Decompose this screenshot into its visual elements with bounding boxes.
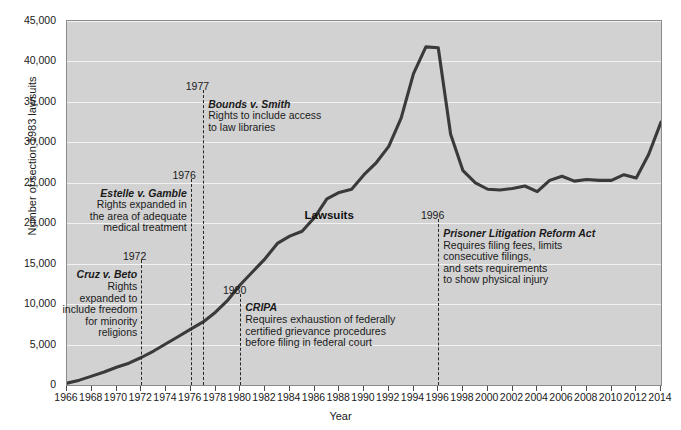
annotation-dashed-line-bounds-v-smith — [203, 90, 204, 385]
y-axis-tick-label: 45,000 — [0, 15, 62, 25]
annotation-dashed-line-prisoner-litigation-reform-act — [438, 219, 439, 385]
annotation-year-wrap-estelle-v-gamble: 1976 — [150, 165, 196, 183]
x-axis-tick-labels: 1966196819701972197419761978198019821984… — [66, 392, 662, 406]
annotation-body-prisoner-litigation-reform-act: Prisoner Litigation Reform ActRequires f… — [443, 228, 603, 286]
y-axis-tick-label: 20,000 — [0, 217, 62, 227]
y-axis-tick-label: 40,000 — [0, 55, 62, 65]
annotation-text-line: before filing in federal court — [245, 337, 420, 349]
y-axis-tick-label: 30,000 — [0, 136, 62, 146]
annotation-layer: 1972Cruz v. BetoRightsexpanded toinclude… — [67, 21, 661, 385]
x-axis-title: Year — [0, 410, 681, 422]
x-axis-tick-label: 2014 — [640, 392, 680, 403]
annotation-body-cruz-v-beto: Cruz v. BetoRightsexpanded toinclude fre… — [25, 269, 137, 339]
annotation-year-wrap-bounds-v-smith: 1977 — [163, 76, 209, 94]
annotation-text-line: Requires exhaustion of federally — [245, 314, 420, 326]
annotation-cruz-v-beto: Cruz v. BetoRightsexpanded toinclude fre… — [25, 269, 137, 339]
annotation-bounds-v-smith: Bounds v. SmithRights to include accesst… — [208, 99, 358, 134]
annotation-estelle-v-gamble: Estelle v. GambleRights expanded inthe a… — [59, 188, 187, 234]
annotation-year-bounds-v-smith: 1977 — [186, 80, 209, 92]
annotation-prisoner-litigation-reform-act: Prisoner Litigation Reform ActRequires f… — [443, 228, 603, 286]
annotation-title-prisoner-litigation-reform-act: Prisoner Litigation Reform Act — [443, 228, 603, 240]
y-axis-tick-label: 15,000 — [0, 258, 62, 268]
annotation-body-cripa: CRIPARequires exhaustion of federallycer… — [245, 302, 420, 348]
annotation-year-prisoner-litigation-reform-act: 1996 — [421, 209, 444, 221]
annotation-text-line: medical treatment — [59, 222, 187, 234]
annotation-dashed-line-cruz-v-beto — [141, 260, 142, 385]
annotation-body-bounds-v-smith: Bounds v. SmithRights to include accesst… — [208, 99, 358, 134]
annotation-year-wrap-cripa: 1980 — [200, 280, 246, 298]
annotation-dashed-line-estelle-v-gamble — [191, 179, 192, 385]
annotation-body-estelle-v-gamble: Estelle v. GambleRights expanded inthe a… — [59, 188, 187, 234]
y-axis-tick-label: 5,000 — [0, 339, 62, 349]
annotation-year-wrap-prisoner-litigation-reform-act: 1996 — [398, 205, 444, 223]
annotation-year-cruz-v-beto: 1972 — [123, 250, 146, 262]
chart-figure: Number of section 1983 lawsuits 05,00010… — [0, 0, 681, 430]
annotation-cripa: CRIPARequires exhaustion of federallycer… — [245, 302, 420, 348]
plot-area: Lawsuits 1972Cruz v. BetoRightsexpanded … — [66, 20, 662, 386]
annotation-text-line: include freedom — [25, 304, 137, 316]
annotation-text-line: Rights — [25, 281, 137, 293]
annotation-text-line: religions — [25, 327, 137, 339]
annotation-year-cripa: 1980 — [223, 284, 246, 296]
annotation-year-estelle-v-gamble: 1976 — [172, 169, 195, 181]
y-axis-tick-label: 25,000 — [0, 177, 62, 187]
y-axis-tick-label: 0 — [0, 379, 62, 389]
annotation-text-line: to law libraries — [208, 122, 358, 134]
annotation-text-line: to show physical injury — [443, 274, 603, 286]
annotation-year-wrap-cruz-v-beto: 1972 — [100, 246, 146, 264]
annotation-dashed-line-cripa — [240, 294, 241, 385]
y-axis-tick-label: 35,000 — [0, 96, 62, 106]
